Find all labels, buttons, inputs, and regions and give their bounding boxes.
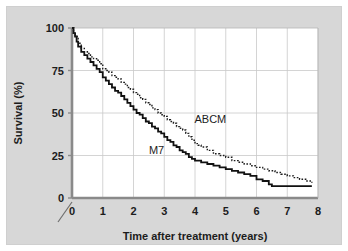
- x-tick-label: 5: [223, 205, 229, 217]
- x-tick-label: 7: [284, 205, 290, 217]
- x-tick-label: 8: [315, 205, 321, 217]
- x-axis-title: Time after treatment (years): [123, 230, 268, 242]
- y-tick-label: 0: [58, 192, 64, 204]
- series-label-abcm: ABCM: [194, 113, 226, 125]
- y-tick-label: 25: [52, 150, 64, 162]
- x-tick-label: 3: [161, 205, 167, 217]
- x-tick-label: 1: [100, 205, 106, 217]
- y-tick-label: 75: [52, 65, 64, 77]
- chart-canvas: 0123456780255075100 ABCMM7 Time after tr…: [0, 0, 348, 251]
- series-label-m7: M7: [149, 144, 164, 156]
- survival-chart-figure: 0123456780255075100 ABCMM7 Time after tr…: [0, 0, 348, 251]
- x-tick-label: 2: [130, 205, 136, 217]
- y-tick-label: 50: [52, 107, 64, 119]
- y-axis-title: Survival (%): [12, 81, 24, 144]
- x-tick-label: 4: [192, 205, 199, 217]
- y-tick-label: 100: [46, 22, 64, 34]
- x-tick-label: 0: [69, 205, 75, 217]
- x-tick-label: 6: [253, 205, 259, 217]
